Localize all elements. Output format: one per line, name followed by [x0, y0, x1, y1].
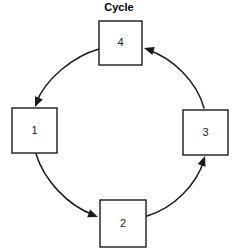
- arrow-3-to-4: [143, 44, 204, 108]
- arrow-2-to-3-head-icon: [198, 155, 209, 167]
- arrow-3-to-4-head-icon: [143, 44, 155, 55]
- page-title: Cycle: [104, 1, 133, 13]
- node-1-label: 1: [31, 124, 37, 136]
- arrow-1-to-2-head-icon: [87, 209, 99, 220]
- node-3[interactable]: 3: [183, 110, 228, 155]
- arrow-4-to-1: [31, 49, 99, 109]
- node-2-label: 2: [120, 217, 126, 229]
- arrow-1-to-2: [36, 154, 100, 221]
- arrow-2-to-3: [147, 155, 209, 216]
- arrow-4-to-1-line: [36, 49, 99, 103]
- node-3-label: 3: [202, 126, 208, 138]
- arrow-3-to-4-line: [148, 50, 204, 108]
- arrow-4-to-1-head-icon: [31, 96, 43, 108]
- arrow-2-to-3-line: [147, 160, 204, 216]
- cycle-diagram-canvas: Cycle 4123: [0, 0, 233, 251]
- node-4[interactable]: 4: [99, 21, 142, 65]
- node-2[interactable]: 2: [100, 200, 146, 247]
- node-1[interactable]: 1: [12, 108, 57, 153]
- arrow-1-to-2-line: [36, 154, 94, 215]
- nodes-layer: 4123: [12, 21, 228, 247]
- cycle-diagram: Cycle 4123: [0, 0, 233, 251]
- node-4-label: 4: [117, 36, 123, 48]
- arrows-layer: [31, 44, 209, 221]
